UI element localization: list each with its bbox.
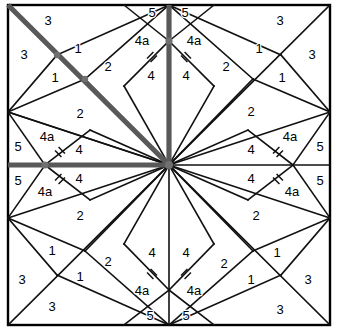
piece-label-q2-3-top: 3 xyxy=(276,13,283,28)
upper-left-inner-node-dot xyxy=(82,76,88,82)
diagram-canvas: 33112254a454a433112254a454a454a421123344… xyxy=(0,0,338,336)
piece-label-q4-5-bot: 5 xyxy=(182,308,189,323)
piece-label-q2-4a-right: 4a xyxy=(283,129,298,144)
upper-left-diagonal-node-dot xyxy=(54,52,60,58)
piece-label-q4-2-lower: 2 xyxy=(220,256,227,271)
tick-right-lower-icon xyxy=(273,174,283,184)
piece-label-q4-1-lower: 1 xyxy=(247,272,254,287)
piece-label-q2-4-top: 4 xyxy=(182,68,189,83)
piece-label-q1-4a-top: 4a xyxy=(135,33,150,48)
tick-bottom-left-icon xyxy=(147,269,157,279)
piece-label-q4-3-bot: 3 xyxy=(276,302,283,317)
piece-label-q3-3-left: 3 xyxy=(18,272,25,287)
piece-label-q1-3-top: 3 xyxy=(44,13,51,28)
left-mid-node-dot xyxy=(41,161,48,168)
piece-label-q1-4-top: 4 xyxy=(147,68,154,83)
piece-label-q1-1-upper: 1 xyxy=(74,41,81,56)
piece-label-q1-4-left: 4 xyxy=(75,142,82,157)
piece-label-q2-2-upper: 2 xyxy=(222,59,229,74)
piece-label-q3-1-lower: 1 xyxy=(76,269,83,284)
piece-label-q3-3-bot: 3 xyxy=(48,299,55,314)
piece-label-q1-5-top: 5 xyxy=(148,5,155,20)
lines-quadrant-bottom-right xyxy=(169,165,330,325)
tick-bottom-right-icon xyxy=(181,269,191,279)
piece-label-q3-4a-left: 4a xyxy=(38,184,53,199)
piece-label-q4-4-bot: 4 xyxy=(182,245,189,260)
piece-label-q2-1-upper: 1 xyxy=(255,41,262,56)
piece-label-q2-2-lower: 2 xyxy=(247,104,254,119)
piece-label-q4-4a-right: 4a xyxy=(285,184,300,199)
piece-label-q3-1-upper: 1 xyxy=(48,243,55,258)
center-node-dot xyxy=(165,161,173,169)
block-pattern-svg: 33112254a454a433112254a454a454a421123344… xyxy=(0,0,338,336)
piece-label-q3-4-bot: 4 xyxy=(148,245,155,260)
piece-label-q3-5-bot: 5 xyxy=(146,308,153,323)
piece-label-q2-4-right: 4 xyxy=(247,142,254,157)
piece-label-q4-1-upper: 1 xyxy=(273,245,280,260)
piece-label-q1-1-lower: 1 xyxy=(51,70,58,85)
piece-label-q1-2-upper: 2 xyxy=(104,59,111,74)
piece-label-q2-5-right: 5 xyxy=(316,139,323,154)
piece-label-q3-5-left: 5 xyxy=(14,173,21,188)
top-mid-node-dot xyxy=(165,37,172,44)
lines-quadrant-bottom-left xyxy=(8,165,169,325)
piece-label-q3-2-upper: 2 xyxy=(76,208,83,223)
piece-label-q4-4a-bot: 4a xyxy=(187,283,202,298)
piece-label-q4-3-right: 3 xyxy=(304,272,311,287)
piece-label-q2-1-lower: 1 xyxy=(278,70,285,85)
piece-label-q4-2-upper: 2 xyxy=(252,208,259,223)
piece-label-q3-4a-bot: 4a xyxy=(135,283,150,298)
piece-label-q4-5-right: 5 xyxy=(316,173,323,188)
piece-label-q1-4a-left: 4a xyxy=(40,129,55,144)
piece-label-q1-3-left: 3 xyxy=(20,47,27,62)
piece-label-q4-4-right: 4 xyxy=(247,171,254,186)
tick-left-lower-icon xyxy=(55,174,65,184)
piece-label-q3-4-left: 4 xyxy=(75,171,82,186)
piece-label-q2-5-top: 5 xyxy=(181,5,188,20)
lines-quadrant-top-right xyxy=(169,5,330,165)
piece-label-q1-5-left: 5 xyxy=(14,139,21,154)
piece-label-q2-4a-top: 4a xyxy=(187,33,202,48)
piece-label-q3-2-lower: 2 xyxy=(104,254,111,269)
piece-label-q1-2-lower: 2 xyxy=(76,106,83,121)
piece-label-q2-3-right: 3 xyxy=(308,47,315,62)
